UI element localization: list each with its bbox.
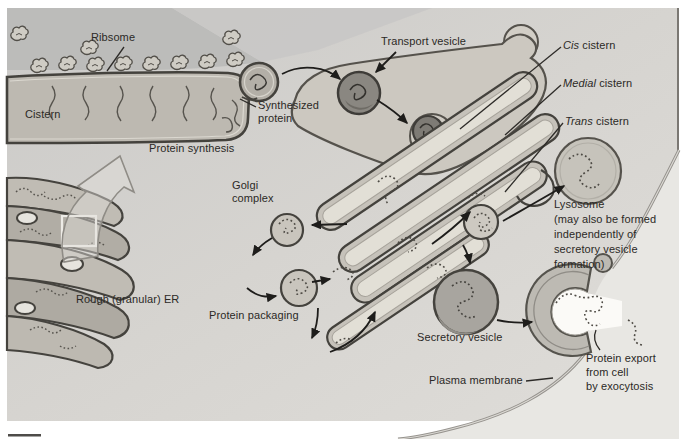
label-rough-er: Rough (granular) ER [76, 293, 179, 306]
label-protein-packaging: Protein packaging [209, 309, 299, 322]
label-secretory-vesicle: Secretory vesicle [417, 331, 502, 344]
label-medial-cistern: Medial cistern [563, 77, 632, 90]
transport-vesicle-shape [338, 72, 380, 114]
budding-vesicle-shape [464, 205, 498, 239]
label-golgi-complex: Golgi complex [232, 179, 274, 205]
scale-bar [8, 434, 41, 437]
label-trans-cistern: Trans cistern [565, 115, 629, 128]
label-lysosome: Lysosome (may also be formed independent… [554, 197, 674, 272]
label-plasma-membrane: Plasma membrane [429, 374, 523, 387]
label-protein-export: Protein export from cell by exocytosis [586, 351, 656, 393]
label-cis-cistern: Cis cistern [563, 39, 615, 52]
lysosome-shape [555, 138, 621, 204]
label-ribosome: Ribsome [91, 31, 135, 44]
label-transport-vesicle: Transport vesicle [381, 35, 466, 48]
cell-protein-export-diagram: Ribsome Cistern Protein synthesis Synthe… [0, 0, 683, 439]
label-synthesized-protein: Synthesized protein [258, 99, 319, 125]
label-protein-synthesis: Protein synthesis [149, 142, 234, 155]
secretory-vesicle-shape [434, 270, 498, 335]
label-cistern: Cistern [25, 108, 61, 121]
